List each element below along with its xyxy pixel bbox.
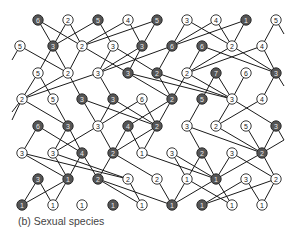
individual-node: 3 bbox=[182, 121, 192, 131]
node-label: 6 bbox=[36, 17, 40, 24]
node-label: 5 bbox=[155, 17, 159, 24]
individual-node: 3 bbox=[77, 94, 87, 104]
node-label: 3 bbox=[140, 43, 144, 50]
individual-node: 1 bbox=[17, 200, 27, 210]
individual-node: 1 bbox=[241, 15, 251, 25]
node-label: 1 bbox=[230, 202, 234, 209]
individual-node: 1 bbox=[48, 200, 58, 210]
individual-node: 2 bbox=[77, 41, 87, 51]
individual-node: 4 bbox=[123, 121, 133, 131]
individual-node: 4 bbox=[257, 41, 267, 51]
individual-node: 5 bbox=[197, 94, 207, 104]
individual-node: 3 bbox=[108, 94, 118, 104]
node-label: 1 bbox=[140, 202, 144, 209]
individual-node: 1 bbox=[197, 200, 207, 210]
node-label: 3 bbox=[185, 123, 189, 130]
individual-node: 1 bbox=[137, 200, 147, 210]
individual-node: 3 bbox=[123, 68, 133, 78]
individual-node: 2 bbox=[93, 174, 103, 184]
individual-node: 1 bbox=[63, 174, 73, 184]
node-label: 3 bbox=[80, 96, 84, 103]
lineage-edge bbox=[113, 126, 157, 153]
node-label: 2 bbox=[80, 43, 84, 50]
individual-node: 5 bbox=[15, 41, 25, 51]
individual-node: 4 bbox=[211, 15, 221, 25]
node-label: 4 bbox=[214, 17, 218, 24]
individual-node: 4 bbox=[257, 94, 267, 104]
individual-node: 2 bbox=[152, 121, 162, 131]
node-label: 1 bbox=[200, 202, 204, 209]
node-label: 4 bbox=[126, 17, 130, 24]
individual-node: 5 bbox=[152, 15, 162, 25]
individual-node: 1 bbox=[211, 174, 221, 184]
lineage-edge bbox=[128, 73, 172, 99]
individual-node: 1 bbox=[182, 174, 192, 184]
individual-node: 3 bbox=[271, 121, 281, 131]
individual-node: 5 bbox=[241, 121, 251, 131]
node-label: 1 bbox=[170, 202, 174, 209]
node-label: 2 bbox=[20, 96, 24, 103]
node-label: 3 bbox=[36, 176, 40, 183]
individual-node: 1 bbox=[227, 200, 237, 210]
individual-node: 1 bbox=[167, 200, 177, 210]
node-label: 3 bbox=[51, 150, 55, 157]
individual-node: 3 bbox=[137, 41, 147, 51]
node-label: 4 bbox=[126, 123, 130, 130]
node-label: 3 bbox=[126, 70, 130, 77]
individual-node: 3 bbox=[271, 68, 281, 78]
individual-node: 2 bbox=[152, 68, 162, 78]
individual-node: 3 bbox=[63, 121, 73, 131]
node-label: 5 bbox=[200, 96, 204, 103]
individual-node: 3 bbox=[93, 121, 103, 131]
individual-node: 2 bbox=[257, 148, 267, 158]
lineage-edge bbox=[22, 179, 68, 205]
node-label: 1 bbox=[20, 202, 24, 209]
individual-node: 2 bbox=[17, 94, 27, 104]
individual-node: 6 bbox=[197, 41, 207, 51]
individual-node: 2 bbox=[182, 68, 192, 78]
node-label: 2 bbox=[96, 176, 100, 183]
node-label: 2 bbox=[274, 176, 278, 183]
node-label: 2 bbox=[260, 150, 264, 157]
individual-node: 6 bbox=[33, 15, 43, 25]
node-label: 2 bbox=[214, 123, 218, 130]
node-label: 7 bbox=[214, 70, 218, 77]
node-label: 5 bbox=[18, 43, 22, 50]
node-label: 2 bbox=[155, 176, 159, 183]
node-label: 3 bbox=[185, 17, 189, 24]
node-label: 5 bbox=[244, 123, 248, 130]
node-label: 1 bbox=[51, 202, 55, 209]
node-label: 3 bbox=[244, 176, 248, 183]
individual-node: 2 bbox=[63, 15, 73, 25]
individual-node: 6 bbox=[137, 94, 147, 104]
node-label: 4 bbox=[260, 96, 264, 103]
individual-node: 2 bbox=[152, 174, 162, 184]
node-label: 2 bbox=[66, 17, 70, 24]
individual-node: 2 bbox=[211, 121, 221, 131]
node-label: 2 bbox=[200, 150, 204, 157]
node-label: 1 bbox=[66, 176, 70, 183]
node-label: 2 bbox=[170, 96, 174, 103]
node-label: 1 bbox=[260, 202, 264, 209]
individual-node: 2 bbox=[63, 68, 73, 78]
node-label: 1 bbox=[185, 176, 189, 183]
individual-node: 1 bbox=[77, 200, 87, 210]
node-label: 6 bbox=[140, 96, 144, 103]
individual-node: 3 bbox=[227, 94, 237, 104]
node-label: 2 bbox=[185, 70, 189, 77]
individual-node: 7 bbox=[211, 68, 221, 78]
individual-node: 6 bbox=[167, 41, 177, 51]
lineage-edge bbox=[82, 20, 128, 46]
figure-caption: (b) Sexual species bbox=[18, 215, 104, 227]
individual-node: 6 bbox=[33, 121, 43, 131]
node-label: 5 bbox=[51, 96, 55, 103]
individual-node: 2 bbox=[167, 94, 177, 104]
individual-node: 3 bbox=[167, 148, 177, 158]
node-label: 3 bbox=[66, 123, 70, 130]
individual-node: 1 bbox=[137, 148, 147, 158]
node-label: 6 bbox=[200, 43, 204, 50]
node-label: 1 bbox=[140, 150, 144, 157]
lineage-edge bbox=[22, 99, 68, 126]
individual-node: 3 bbox=[93, 68, 103, 78]
node-label: 4 bbox=[260, 43, 264, 50]
